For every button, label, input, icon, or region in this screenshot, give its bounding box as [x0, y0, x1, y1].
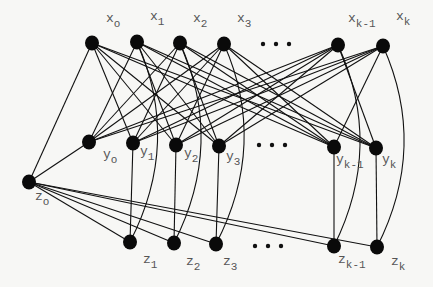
- label-x1: x1: [150, 9, 165, 28]
- label-z1: z1: [143, 252, 158, 271]
- label-zo: zo: [35, 189, 49, 208]
- node-y1: [126, 136, 140, 151]
- node-x2: [173, 36, 187, 51]
- ellipsis-dot: [257, 143, 261, 147]
- edge-y-z: [216, 146, 219, 244]
- label-zk1: zk-1: [338, 252, 366, 271]
- graph-diagram: xo x1 x2 x3 xk-1 xk yo y1 y2 y3 yk-1 yk …: [0, 0, 433, 287]
- graph-svg: xo x1 x2 x3 xk-1 xk yo y1 y2 y3 yk-1 yk …: [0, 0, 433, 287]
- ellipsis-dot: [283, 143, 287, 147]
- node-z1: [123, 235, 137, 250]
- ellipsis-dot: [270, 143, 274, 147]
- edge-y-z: [174, 145, 176, 243]
- node-yo: [82, 135, 96, 150]
- edge-zo-z: [29, 182, 334, 246]
- ellipsis-dot: [266, 244, 270, 248]
- label-yk: yk: [382, 152, 397, 171]
- node-yk: [369, 141, 383, 156]
- ellipsis-dot: [261, 42, 265, 46]
- label-x3: x3: [237, 11, 251, 30]
- edge-x-y: [133, 46, 383, 143]
- nodes: [22, 35, 390, 255]
- edge-zo-z: [29, 182, 377, 247]
- ellipsis-dot: [253, 244, 257, 248]
- label-y2: y2: [184, 146, 198, 165]
- label-y3: y3: [226, 149, 240, 168]
- label-xk: xk: [396, 9, 411, 28]
- label-z2: z2: [186, 254, 200, 273]
- node-xo: [85, 36, 99, 51]
- ellipsis-dot: [279, 244, 283, 248]
- node-xk1: [331, 38, 345, 53]
- edge-zo-z: [29, 182, 174, 243]
- label-yo: yo: [103, 147, 117, 166]
- label-z3: z3: [223, 254, 237, 273]
- node-x3: [217, 37, 231, 52]
- label-y1: y1: [140, 144, 155, 163]
- node-zk: [370, 240, 384, 255]
- edge-y-z: [130, 143, 133, 242]
- edge-zo-z: [29, 182, 216, 244]
- label-zk: zk: [391, 254, 406, 273]
- node-y3: [212, 139, 226, 154]
- node-xk: [376, 39, 390, 54]
- node-zo: [22, 175, 36, 190]
- label-xk1: xk-1: [348, 11, 376, 30]
- edge-x-y: [338, 45, 376, 148]
- ellipsis-dots: [253, 42, 291, 248]
- node-x1: [130, 35, 144, 50]
- node-y2: [169, 138, 183, 153]
- label-x2: x2: [193, 11, 207, 30]
- edge-y-z: [376, 148, 377, 247]
- ellipsis-dot: [274, 42, 278, 46]
- label-xo: xo: [106, 11, 120, 30]
- node-z2: [167, 236, 181, 251]
- node-z3: [209, 237, 223, 252]
- ellipsis-dot: [287, 42, 291, 46]
- edge-x-y: [89, 42, 137, 142]
